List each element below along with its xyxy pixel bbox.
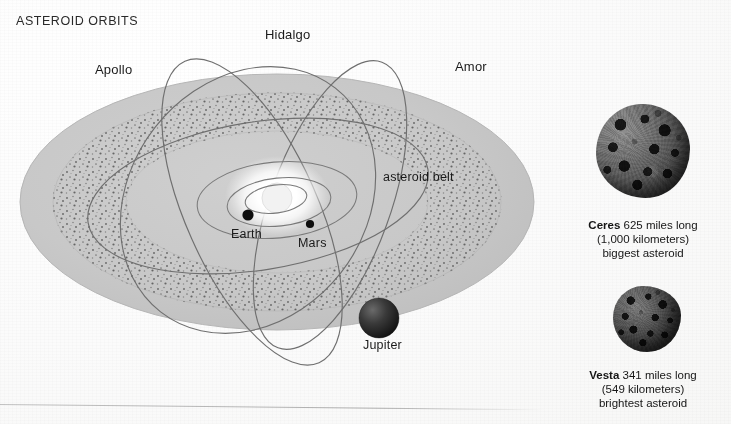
sun-core (262, 183, 292, 213)
ceres-caption: Ceres 625 miles long (1,000 kilometers) … (543, 218, 731, 260)
vesta-surface-grain (613, 286, 681, 352)
amor-orbit-label: Amor (455, 59, 487, 74)
figure-title: ASTEROID ORBITS (16, 14, 138, 28)
earth-dot (242, 209, 253, 220)
ceres-metric: (1,000 kilometers) (543, 232, 731, 246)
mars-dot (306, 220, 314, 228)
asteroid-belt-label: asteroid belt (383, 170, 454, 184)
ceres-surface-grain (596, 104, 690, 198)
jupiter-planet (359, 298, 399, 338)
ceres-name: Ceres (588, 219, 620, 231)
vesta-name: Vesta (589, 369, 619, 381)
earth-label: Earth (231, 227, 262, 241)
vesta-size: 341 miles long (623, 369, 697, 381)
apollo-orbit-label: Apollo (95, 62, 132, 77)
vesta-note: brightest asteroid (543, 396, 731, 410)
ceres-asteroid-image (596, 104, 690, 198)
vesta-asteroid-image (613, 286, 681, 352)
vesta-caption: Vesta 341 miles long (549 kilometers) br… (543, 368, 731, 410)
ceres-note: biggest asteroid (543, 246, 731, 260)
hidalgo-orbit-label: Hidalgo (265, 27, 311, 42)
vesta-metric: (549 kilometers) (543, 382, 731, 396)
mars-label: Mars (298, 236, 327, 250)
ceres-size: 625 miles long (624, 219, 698, 231)
jupiter-label: Jupiter (363, 338, 402, 352)
asteroid-orbits-figure: ASTEROID ORBITS Apollo Hidalgo Amor aste… (0, 0, 731, 424)
